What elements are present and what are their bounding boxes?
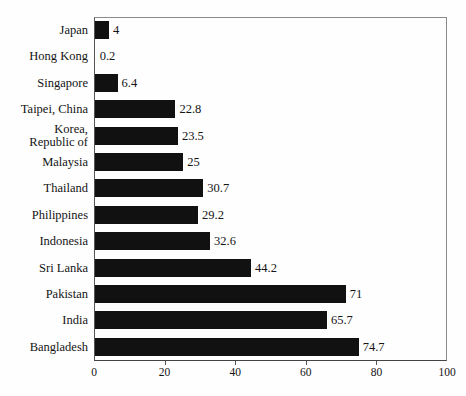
bar-row: Bangladesh74.7	[0, 334, 466, 360]
x-axis-tick-label: 80	[371, 366, 383, 378]
bar	[95, 311, 327, 329]
category-label: Sri Lanka	[0, 261, 88, 274]
category-label: Singapore	[0, 76, 88, 89]
bar	[95, 100, 175, 118]
category-label: Korea, Republic of	[0, 123, 88, 149]
bar-row: Pakistan71	[0, 281, 466, 307]
bar-row: Philippines29.2	[0, 202, 466, 228]
bar-value-label: 22.8	[179, 102, 201, 117]
x-axis-tick-label: 20	[159, 366, 171, 378]
bar	[95, 179, 203, 197]
bar-row: Taipei, China22.8	[0, 96, 466, 122]
bar	[95, 259, 251, 277]
x-axis-tick-label: 40	[229, 366, 241, 378]
bar-value-label: 29.2	[202, 207, 224, 222]
category-label: Malaysia	[0, 156, 88, 169]
bar-value-label: 71	[350, 287, 363, 302]
bar-value-label: 4	[113, 23, 119, 38]
category-label: India	[0, 314, 88, 327]
bar	[95, 285, 346, 303]
bar	[95, 21, 109, 39]
category-label: Taipei, China	[0, 103, 88, 116]
bar-row: Singapore6.4	[0, 70, 466, 96]
x-axis-tick-label: 0	[91, 366, 97, 378]
bar-value-label: 74.7	[363, 339, 385, 354]
bar-chart: Japan4Hong Kong0.2Singapore6.4Taipei, Ch…	[0, 0, 466, 396]
category-label: Indonesia	[0, 235, 88, 248]
bar-row: Malaysia25	[0, 149, 466, 175]
bar-row: Hong Kong0.2	[0, 43, 466, 69]
x-axis-tick	[306, 361, 307, 365]
bar-value-label: 32.6	[214, 234, 236, 249]
category-label: Hong Kong	[0, 50, 88, 63]
bar-value-label: 44.2	[255, 260, 277, 275]
x-axis-tick	[235, 361, 236, 365]
bar	[95, 153, 183, 171]
bar-row: India65.7	[0, 307, 466, 333]
bar	[95, 206, 198, 224]
category-label: Philippines	[0, 208, 88, 221]
bar-value-label: 6.4	[122, 75, 138, 90]
x-axis-tick	[165, 361, 166, 365]
bar	[95, 338, 359, 356]
x-axis-tick-label: 60	[300, 366, 312, 378]
bar-row: Indonesia32.6	[0, 228, 466, 254]
category-label: Thailand	[0, 182, 88, 195]
bar-row: Japan4	[0, 17, 466, 43]
category-label: Pakistan	[0, 288, 88, 301]
bar-value-label: 65.7	[331, 313, 353, 328]
x-axis-tick-label: 100	[438, 366, 455, 378]
category-label: Japan	[0, 24, 88, 37]
bar-value-label: 25	[187, 155, 200, 170]
bar-row: Sri Lanka44.2	[0, 255, 466, 281]
bar	[95, 74, 118, 92]
category-label: Bangladesh	[0, 340, 88, 353]
bar-value-label: 23.5	[182, 128, 204, 143]
bar-row: Korea, Republic of23.5	[0, 123, 466, 149]
x-axis-tick	[376, 361, 377, 365]
bar	[95, 127, 178, 145]
bar-value-label: 30.7	[207, 181, 229, 196]
bar-row: Thailand30.7	[0, 175, 466, 201]
bar	[95, 232, 210, 250]
bar-value-label: 0.2	[100, 49, 116, 64]
